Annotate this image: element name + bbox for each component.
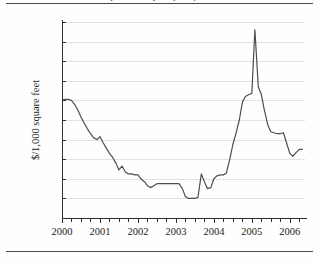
x-tick-mark-major xyxy=(290,218,291,223)
x-tick-mark-minor xyxy=(147,218,148,222)
x-tick-mark-minor xyxy=(166,218,167,222)
x-tick-mark-minor xyxy=(204,218,205,222)
y-tick-mark xyxy=(62,22,66,23)
x-tick-mark-minor xyxy=(280,218,281,222)
x-tick-mark-minor xyxy=(242,218,243,222)
x-tick-mark-major xyxy=(100,218,101,223)
price-line-series xyxy=(62,22,305,218)
x-tick-mark-minor xyxy=(271,218,272,222)
x-tick-label: 2006 xyxy=(279,226,300,237)
x-tick-mark-major xyxy=(214,218,215,223)
x-tick-mark-minor xyxy=(195,218,196,222)
x-tick-mark-minor xyxy=(185,218,186,222)
series-layer xyxy=(62,22,305,218)
x-tick-mark-minor xyxy=(299,218,300,222)
x-tick-mark-minor xyxy=(119,218,120,222)
x-tick-mark-major xyxy=(252,218,253,223)
figure-container: price index per square foot 310290270250… xyxy=(0,0,319,261)
y-tick-mark xyxy=(62,179,66,180)
x-tick-label: 2002 xyxy=(127,226,148,237)
y-tick-mark xyxy=(62,120,66,121)
x-tick-label: 2005 xyxy=(241,226,262,237)
y-axis-title-container: $/1,000 square feet xyxy=(14,22,28,218)
x-tick-label: 2003 xyxy=(165,226,186,237)
x-tick-mark-major xyxy=(176,218,177,223)
x-tick-mark-minor xyxy=(81,218,82,222)
x-tick-mark-major xyxy=(62,218,63,223)
x-tick-label: 2001 xyxy=(89,226,110,237)
x-tick-label: 2000 xyxy=(52,226,73,237)
x-tick-mark-minor xyxy=(233,218,234,222)
y-tick-mark xyxy=(62,81,66,82)
y-tick-mark xyxy=(62,61,66,62)
x-tick-mark-minor xyxy=(71,218,72,222)
y-axis-title: $/1,000 square feet xyxy=(30,50,41,190)
y-tick-mark xyxy=(62,159,66,160)
x-tick-mark-minor xyxy=(90,218,91,222)
plot-area xyxy=(62,22,305,218)
x-tick-mark-minor xyxy=(157,218,158,222)
y-tick-mark xyxy=(62,140,66,141)
y-tick-mark xyxy=(62,42,66,43)
x-tick-mark-minor xyxy=(109,218,110,222)
x-tick-mark-minor xyxy=(261,218,262,222)
x-tick-mark-minor xyxy=(223,218,224,222)
bottom-rule xyxy=(6,251,313,252)
x-tick-label: 2004 xyxy=(203,226,224,237)
y-tick-mark xyxy=(62,198,66,199)
y-tick-mark xyxy=(62,100,66,101)
x-tick-mark-minor xyxy=(128,218,129,222)
x-tick-mark-major xyxy=(138,218,139,223)
